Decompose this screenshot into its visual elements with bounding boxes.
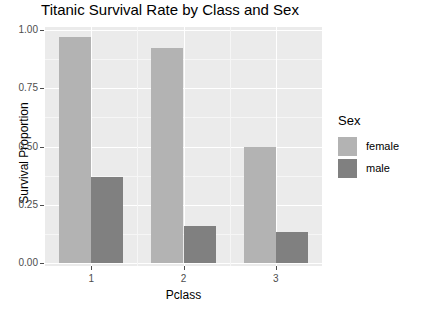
gridline-vertical-minor [137, 27, 138, 266]
legend-entries: femalemale [338, 135, 430, 179]
y-tick-mark [40, 30, 44, 31]
x-tick-label: 1 [71, 273, 111, 284]
y-tick-label: 0.50 [0, 141, 38, 152]
legend-label-female: female [366, 140, 399, 152]
chart-container: Titanic Survival Rate by Class and Sex S… [0, 0, 431, 314]
y-tick-mark [40, 147, 44, 148]
y-tick-label: 0.00 [0, 257, 38, 268]
x-tick-mark [91, 266, 92, 270]
bar-1-female [59, 37, 91, 263]
bar-2-female [151, 48, 183, 263]
plot-panel [45, 27, 322, 266]
bar-3-male [276, 232, 308, 263]
legend-title: Sex [338, 113, 430, 128]
legend-key-female [338, 137, 357, 156]
y-tick-mark [40, 263, 44, 264]
x-axis-title: Pclass [45, 288, 322, 302]
y-tick-mark [40, 88, 44, 89]
x-tick-mark [276, 266, 277, 270]
legend-key-male [338, 159, 357, 178]
legend-label-male: male [366, 162, 390, 174]
y-tick-label: 0.25 [0, 199, 38, 210]
chart-title: Titanic Survival Rate by Class and Sex [0, 1, 340, 18]
bar-3-female [244, 147, 276, 264]
y-tick-mark [40, 205, 44, 206]
y-tick-label: 0.75 [0, 82, 38, 93]
x-tick-label: 3 [256, 273, 296, 284]
bar-2-male [184, 226, 216, 263]
gridline-vertical-minor [230, 27, 231, 266]
legend: Sex femalemale [338, 113, 430, 179]
x-tick-mark [184, 266, 185, 270]
legend-item-female: female [338, 135, 430, 157]
legend-item-male: male [338, 157, 430, 179]
x-tick-label: 2 [164, 273, 204, 284]
bar-1-male [91, 177, 123, 263]
gridline-vertical-major [276, 27, 277, 266]
y-tick-label: 1.00 [0, 24, 38, 35]
